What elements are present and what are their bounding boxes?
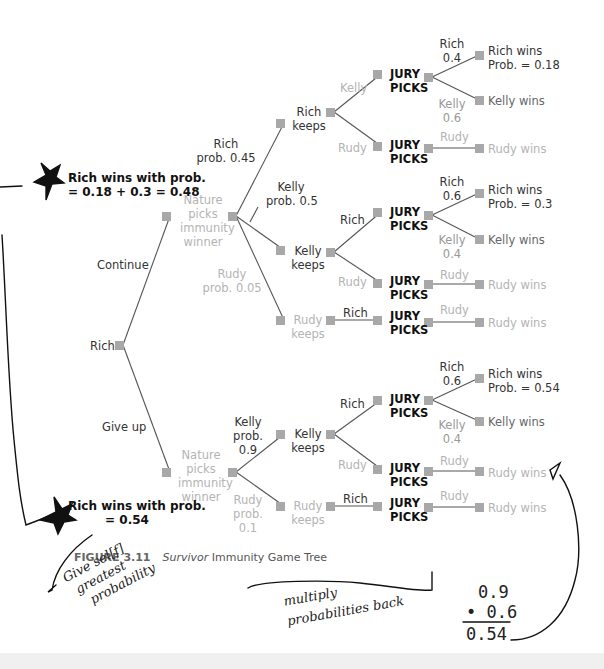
outcome-4-node [475,189,484,198]
outcome-rich-wins-6: Rich wins Prob. = 0.54 [488,367,560,395]
rudy-prob-label-b: Rudy prob. 0.1 [230,493,266,535]
jury-picks-label-7: JURY PICKS [390,461,428,489]
kelly-keeps-node [326,248,335,257]
outcome-kelly-wins-6: Kelly wins [488,415,545,429]
move-rudy-label: Rudy [338,141,367,155]
jury-6-in-node [373,396,382,405]
kelly-keeps-label: Kelly keeps [290,244,326,272]
give-up-label: Give up [102,420,146,434]
jury-picks-label-6: JURY PICKS [390,392,428,420]
nature-picks-label-continue: Nature picks immunity winner [180,193,226,249]
giveup-result-text: Rich wins with prob. = 0.54 [68,499,186,527]
jury4-rudy-label: Rudy [440,268,469,282]
jury7-rudy-label: Rudy [440,454,469,468]
outcome-rudy-wins-8: Rudy wins [488,501,546,515]
outcome-8-node [475,374,484,383]
rich-prob-label: Rich prob. 0.45 [196,137,256,165]
kelly-prob-label: Kelly prob. 0.5 [266,180,316,208]
outcome-7-node [475,318,484,327]
jury1-kelly-label: Kelly 0.6 [437,97,467,125]
outcome-2-node [475,96,484,105]
outcome-5-node [475,235,484,244]
jury-picks-label-8: JURY PICKS [390,496,428,524]
outcome-kelly-wins-3: Kelly wins [488,233,545,247]
move-rich-label-b2: Rich [343,492,368,506]
rudy-keeps-label: Rudy keeps [290,313,326,341]
move-rich-label: Rich [340,213,365,227]
jury1-rich-label: Rich 0.4 [438,37,466,65]
jury3-kelly-label: Kelly 0.4 [437,233,467,261]
kelly-keeps-b-node [326,430,335,439]
move-kelly-label: Kelly [340,81,367,95]
outcome-3-node [475,144,484,153]
jury8-rudy-label: Rudy [440,489,469,503]
nature-picks-label-giveup: Nature picks immunity winner [178,448,224,504]
outcome-6-node [475,280,484,289]
rudy-keeps-b-in-node [276,502,285,511]
outcome-rudy-wins-2: Rudy wins [488,142,546,156]
nature-node-continue [228,212,237,221]
nature-node-continue-in [162,212,171,221]
outcome-rich-wins-1: Rich wins Prob. = 0.18 [488,44,560,72]
outcome-rudy-wins-4: Rudy wins [488,278,546,292]
continue-label: Continue [97,258,149,272]
root-node [115,341,124,350]
move-rudy-label-b: Rudy [338,458,367,472]
outcome-10-node [475,467,484,476]
rich-keeps-node [326,108,335,117]
jury-4-in-node [373,279,382,288]
outcome-11-node [475,503,484,512]
rudy-keeps-node [326,316,335,325]
jury-picks-label-4: JURY PICKS [390,274,428,302]
kelly-prob-label-b: Kelly prob. 0.9 [230,415,266,457]
outcome-1-node [475,51,484,60]
outcome-kelly-wins-1: Kelly wins [488,94,545,108]
jury2-rudy-label: Rudy [440,130,469,144]
move-rich-label: Rich [343,306,368,320]
figure-title: Immunity Game Tree [212,551,327,564]
page-bottom-shade [0,653,604,669]
nature-node-giveup-in [162,468,171,477]
move-rudy-label: Rudy [338,275,367,289]
kelly-keeps-in-node [276,246,285,255]
jury-1-in-node [373,70,382,79]
rich-keeps-in-node [276,119,285,128]
outcome-rudy-wins-5: Rudy wins [488,316,546,330]
outcome-rudy-wins-7: Rudy wins [488,466,546,480]
outcome-9-node [475,417,484,426]
jury3-rich-label: Rich 0.6 [438,175,466,203]
outcome-rich-wins-3: Rich wins Prob. = 0.3 [488,183,552,211]
rudy-keeps-label-b: Rudy keeps [290,499,326,527]
move-rich-label-b: Rich [340,397,365,411]
root-label: Rich [90,339,115,353]
jury6-kelly-label: Kelly 0.4 [437,418,467,446]
rudy-keeps-in-node [276,316,285,325]
jury-2-in-node [373,142,382,151]
jury6-rich-label: Rich 0.6 [438,360,466,388]
rudy-prob-label: Rudy prob. 0.05 [202,267,262,295]
kelly-keeps-label-b: Kelly keeps [290,427,326,455]
jury-picks-label-1: JURY PICKS [390,67,428,95]
kelly-keeps-b-in-node [276,430,285,439]
continue-result-text: Rich wins with prob. = 0.18 + 0.3 = 0.48 [68,171,196,199]
jury-picks-label-3: JURY PICKS [390,205,428,233]
jury-3-in-node [373,208,382,217]
jury-5-in-node [373,316,382,325]
jury-picks-label-2: JURY PICKS [390,138,428,166]
rudy-keeps-b-node [326,502,335,511]
jury-picks-label-5: JURY PICKS [390,309,428,337]
rich-keeps-label: Rich keeps [291,105,327,133]
jury5-rudy-label: Rudy [440,303,469,317]
handwritten-calculation: 0.9 • 0.6 0.54 [466,582,517,644]
game-tree-figure: Rich Continue Give up Nature picks immun… [0,0,604,669]
figure-title-italic: Survivor [163,551,209,564]
jury-8-in-node [373,502,382,511]
jury-7-in-node [373,465,382,474]
